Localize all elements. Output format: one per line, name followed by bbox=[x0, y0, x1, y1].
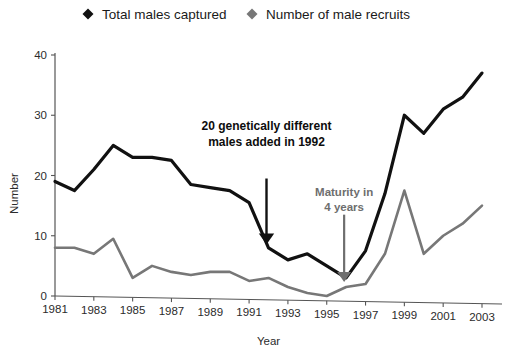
x-axis-tick-label: 2001 bbox=[430, 310, 456, 322]
annotation-added-males-line1: 20 genetically different bbox=[201, 119, 331, 133]
annotation-maturity-line1: Maturity in bbox=[315, 186, 373, 198]
chart-annotations: 20 genetically differentmales added in 1… bbox=[201, 119, 373, 277]
x-axis-tick-label: 1997 bbox=[353, 309, 379, 321]
annotation-maturity-line2: 4 years bbox=[324, 201, 364, 213]
legend-marker-diamond-icon bbox=[247, 9, 258, 20]
y-axis-title: Number bbox=[8, 173, 20, 214]
series-line-0 bbox=[55, 73, 482, 278]
x-axis-tick-label: 1985 bbox=[120, 304, 146, 316]
chart-legend: Total males capturedNumber of male recru… bbox=[83, 7, 411, 22]
annotation-added-males-line2: males added in 1992 bbox=[208, 135, 325, 149]
x-axis-tick-label: 1981 bbox=[42, 303, 68, 315]
x-axis-title: Year bbox=[257, 335, 280, 347]
legend-item-label-0: Total males captured bbox=[102, 7, 227, 22]
y-axis-tick-label: 0 bbox=[41, 290, 47, 302]
x-axis-tick-label: 1993 bbox=[275, 307, 301, 319]
y-axis-tick-label: 40 bbox=[34, 49, 47, 61]
x-axis-tick-label: 1991 bbox=[236, 306, 262, 318]
x-axis-tick-label: 1989 bbox=[197, 306, 223, 318]
x-axis-tick-label: 2003 bbox=[469, 311, 495, 323]
legend-item-label-1: Number of male recruits bbox=[266, 7, 410, 22]
legend-marker-diamond-icon bbox=[83, 9, 94, 20]
x-axis-line bbox=[55, 296, 502, 304]
y-axis-tick-label: 20 bbox=[34, 170, 47, 182]
x-axis-tick-label: 1999 bbox=[392, 309, 418, 321]
y-axis-tick-label: 10 bbox=[34, 230, 47, 242]
y-axis-tick-label: 30 bbox=[34, 109, 47, 121]
x-axis-tick-label: 1987 bbox=[159, 305, 185, 317]
chart-container: Total males capturedNumber of male recru… bbox=[0, 0, 506, 362]
x-axis-tick-label: 1983 bbox=[81, 304, 107, 316]
line-chart: Total males capturedNumber of male recru… bbox=[0, 0, 506, 362]
series-line-1 bbox=[55, 191, 482, 296]
chart-axes: 0102030401981198319851987198919911993199… bbox=[8, 49, 502, 347]
x-axis-tick-label: 1995 bbox=[314, 308, 340, 320]
